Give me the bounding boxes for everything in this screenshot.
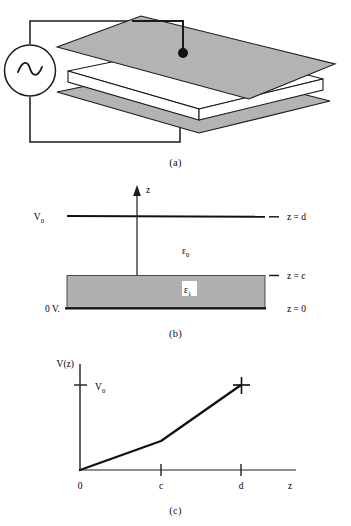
top-plate-line bbox=[67, 216, 265, 217]
z-axis-arrowhead bbox=[133, 185, 141, 196]
caption-b: (b) bbox=[0, 328, 351, 339]
z-eq-c-label: z = c bbox=[287, 271, 306, 281]
z-axis-label: z bbox=[146, 185, 150, 195]
potential-curve bbox=[80, 385, 241, 470]
epsilon-1-label-group: ε1 bbox=[182, 281, 197, 297]
slab-rect bbox=[67, 276, 265, 309]
v0-subscript-c: 0 bbox=[102, 387, 106, 394]
bottom-plate-potential-label: 0 V. bbox=[45, 304, 60, 314]
panel-c-svg: V(z) z V0 c d 0 bbox=[0, 352, 351, 526]
caption-c: (c) bbox=[0, 505, 351, 516]
x-tick-c: c bbox=[159, 464, 163, 491]
y-axis-title: V(z) bbox=[57, 359, 74, 370]
x-tick-c-label: c bbox=[159, 481, 163, 491]
panel-c-potential-plot: V(z) z V0 c d 0 bbox=[0, 352, 351, 526]
z-eq-d-label: z = d bbox=[287, 212, 306, 222]
ac-source-symbol bbox=[5, 45, 56, 96]
eps0-subscript: 0 bbox=[186, 251, 190, 258]
epsilon-0-label: ε0 bbox=[182, 246, 190, 258]
x-tick-origin-label: 0 bbox=[78, 481, 83, 491]
y-tick-v0: V0 bbox=[74, 382, 106, 394]
plot-axes bbox=[80, 364, 296, 470]
panel-b-svg: z V0 z = d ε0 ε1 bbox=[0, 180, 351, 352]
top-plate-potential-label: V0 bbox=[34, 212, 45, 224]
z-eq-0-label: z = 0 bbox=[287, 304, 306, 314]
z-eq-d-marker: z = d bbox=[269, 212, 306, 222]
panel-b-cross-section: z V0 z = d ε0 ε1 bbox=[0, 180, 351, 352]
panel-a-capacitor-perspective: (a) bbox=[0, 0, 351, 180]
v0-subscript: 0 bbox=[41, 217, 45, 224]
caption-a: (a) bbox=[0, 157, 351, 168]
terminal-contact-dot bbox=[178, 48, 188, 58]
x-tick-d: d bbox=[239, 464, 244, 491]
y-tick-v0-label: V0 bbox=[95, 382, 106, 394]
panel-a-svg bbox=[0, 0, 351, 180]
z-eq-c-marker: z = c bbox=[269, 271, 306, 281]
x-axis-title: z bbox=[288, 481, 292, 491]
dielectric-slab-region bbox=[65, 276, 266, 309]
x-tick-d-label: d bbox=[239, 481, 244, 491]
eps1-subscript: 1 bbox=[188, 290, 191, 297]
endpoint-cross-marker bbox=[233, 377, 250, 394]
figure-root: (a) z V0 z = d ε0 bbox=[0, 0, 351, 526]
